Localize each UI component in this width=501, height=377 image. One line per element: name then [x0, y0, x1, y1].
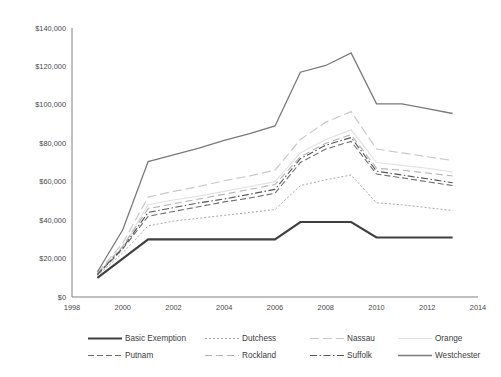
y-axis-tick-label: $100,000	[35, 100, 66, 109]
legend-label-orange[interactable]: Orange	[435, 334, 463, 343]
x-axis-tick-label: 1998	[64, 303, 80, 312]
series-line-dutchess	[97, 175, 452, 276]
y-axis-tick-labels: $0$20,000$40,000$60,000$80,000$100,000$1…	[35, 24, 66, 302]
chart-container: $0$20,000$40,000$60,000$80,000$100,000$1…	[0, 0, 501, 377]
legend-label-basic-exemption[interactable]: Basic Exemption	[125, 334, 186, 343]
legend-label-dutchess[interactable]: Dutchess	[242, 334, 276, 343]
x-axis-tick-label: 2002	[165, 303, 181, 312]
legend-label-rockland[interactable]: Rockland	[242, 351, 277, 360]
series-group	[97, 53, 452, 278]
y-axis-tick-label: $20,000	[39, 254, 66, 263]
series-line-nassau	[97, 112, 452, 273]
x-axis-tick-label: 2006	[267, 303, 283, 312]
y-axis-tick-label: $120,000	[35, 62, 66, 71]
x-axis-tick-label: 2012	[419, 303, 435, 312]
line-chart: $0$20,000$40,000$60,000$80,000$100,000$1…	[0, 0, 501, 377]
y-axis-tick-label: $140,000	[35, 24, 66, 33]
y-axis-tick-label: $60,000	[39, 177, 66, 186]
chart-legend: Basic ExemptionDutchessNassauOrangePutna…	[88, 334, 481, 360]
y-axis-tick-label: $0	[58, 293, 66, 302]
legend-label-suffolk[interactable]: Suffolk	[347, 351, 373, 360]
legend-label-westchester[interactable]: Westchester	[435, 351, 481, 360]
series-line-orange	[97, 130, 452, 274]
x-axis-tick-label: 2010	[368, 303, 384, 312]
y-axis-tick-label: $80,000	[39, 139, 66, 148]
legend-label-putnam[interactable]: Putnam	[125, 351, 153, 360]
x-axis-tick-labels: 199820002002200420062008201020122014	[64, 303, 486, 312]
y-axis-tick-label: $40,000	[39, 216, 66, 225]
x-axis-tick-label: 2004	[216, 303, 232, 312]
x-axis-tick-label: 2000	[115, 303, 131, 312]
x-axis-tick-label: 2008	[318, 303, 334, 312]
x-axis-tick-label: 2014	[470, 303, 486, 312]
series-line-basic-exemption	[97, 222, 452, 278]
series-line-suffolk	[97, 138, 452, 275]
legend-label-nassau[interactable]: Nassau	[347, 334, 375, 343]
